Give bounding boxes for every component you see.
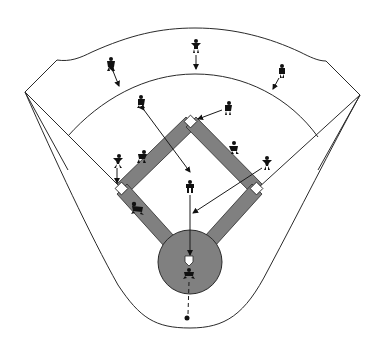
pitcher: [186, 180, 194, 193]
arrow-right-fielder: [273, 78, 279, 89]
baseball-field-diagram: [0, 0, 383, 349]
left-fielder: [107, 57, 115, 71]
first-baseman: [262, 156, 272, 170]
right-foul-line: [257, 95, 360, 189]
right-fielder: [279, 64, 285, 78]
second-baseman: [225, 101, 232, 115]
basepath-2nd-3rd: [117, 117, 196, 194]
basepath-3rd-home: [117, 184, 174, 246]
basepath-1st-home: [205, 184, 262, 246]
ball-marker: [185, 316, 190, 321]
left-foul-line: [25, 92, 122, 189]
third-baseman: [113, 154, 123, 168]
arrow-left-fielder: [113, 71, 119, 86]
center-fielder: [191, 39, 201, 53]
right-foul-line-outer: [318, 95, 360, 170]
shortstop: [137, 95, 145, 108]
basepath-2nd-1st: [186, 117, 262, 194]
arrow-second-baseman: [198, 110, 222, 119]
left-foul-line-outer: [25, 92, 68, 170]
